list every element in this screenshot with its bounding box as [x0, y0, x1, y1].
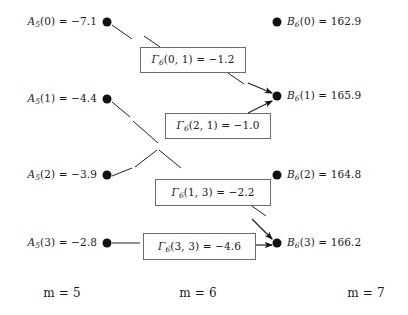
node-a5-3-dot: [103, 239, 112, 248]
stage-label-m7-value: 7: [377, 286, 385, 300]
edge-a2-to-crossing: [112, 168, 132, 176]
stage-label-m7: m = 7: [347, 286, 385, 300]
node-b6-2-dot: [273, 171, 282, 180]
node-a5-3-label: A5(3) = −2.8: [28, 236, 97, 250]
stage-label-m5-eq: =: [55, 286, 73, 300]
node-b6-3-label: B6(3) = 166.2: [287, 236, 361, 250]
node-a5-1-dot: [103, 95, 112, 104]
gamma-box-3-3: Γ6(3, 3) = −4.6: [143, 233, 256, 260]
stage-label-m5: m = 5: [43, 286, 81, 300]
node-a5-2-dot: [103, 171, 112, 180]
edge-a0-to-gamma01: [112, 25, 132, 39]
trellis-diagram: A5(0) = −7.1 A5(1) = −4.4 A5(2) = −3.9 A…: [0, 0, 408, 315]
node-a5-1-label: A5(1) = −4.4: [28, 92, 97, 106]
edge-gamma13-exit: [252, 206, 266, 216]
edge-gamma01-exit: [228, 73, 244, 84]
edge-gamma21-to-b1: [248, 101, 272, 113]
gamma-box-0-1: Γ6(0, 1) = −1.2: [140, 47, 246, 73]
node-b6-1-label: B6(1) = 165.9: [287, 89, 361, 103]
edge-cross-lower-right: [159, 150, 181, 168]
stage-label-m7-var: m: [347, 286, 359, 300]
node-b6-1-dot: [273, 92, 282, 101]
stage-label-m5-value: 5: [73, 286, 81, 300]
node-b6-3-dot: [273, 239, 282, 248]
stage-label-m7-eq: =: [359, 286, 377, 300]
gamma-box-1-3: Γ6(1, 3) = −2.2: [155, 179, 271, 206]
edge-cross-lower-left: [135, 150, 157, 167]
stage-label-m6-value: 6: [209, 286, 217, 300]
node-b6-0-dot: [273, 18, 282, 27]
edge-gamma01-to-b1: [248, 83, 272, 93]
gamma-box-2-1-text: Γ6(2, 1) = −1.0: [177, 119, 260, 133]
stage-label-m6: m = 6: [179, 286, 217, 300]
gamma-box-2-1: Γ6(2, 1) = −1.0: [165, 113, 271, 139]
gamma-box-1-3-text: Γ6(1, 3) = −2.2: [172, 186, 255, 200]
node-b6-2-label: B6(2) = 164.8: [287, 168, 361, 182]
gamma-box-0-1-text: Γ6(0, 1) = −1.2: [152, 53, 235, 67]
edge-cross-upper: [133, 121, 158, 143]
edge-a1-down: [112, 102, 130, 117]
node-a5-0-label: A5(0) = −7.1: [28, 15, 97, 29]
node-a5-0-dot: [103, 18, 112, 27]
node-a5-2-label: A5(2) = −3.9: [28, 168, 97, 182]
stage-label-m6-eq: =: [191, 286, 209, 300]
stage-label-m6-var: m: [179, 286, 191, 300]
stage-label-m5-var: m: [43, 286, 55, 300]
edge-gamma01-entry: [144, 36, 160, 47]
node-b6-0-label: B6(0) = 162.9: [287, 15, 361, 29]
gamma-box-3-3-text: Γ6(3, 3) = −4.6: [158, 240, 241, 254]
